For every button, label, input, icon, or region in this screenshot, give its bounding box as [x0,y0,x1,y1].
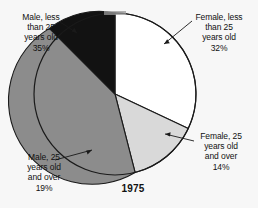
scan-artifact [104,11,126,15]
label-female-25-and-over: Female, 25 years old and over 14% [186,131,256,172]
pie-chart-figure: Male, less than 25 years old 35% Female,… [0,0,258,208]
chart-year-caption: 1975 [108,183,158,194]
label-male-25-and-over: Male, 25 years old and over 19% [6,152,82,193]
label-female-under-25: Female, less than 25 years old 32% [183,12,255,53]
label-male-under-25: Male, less than 25 years old 35% [4,12,78,53]
